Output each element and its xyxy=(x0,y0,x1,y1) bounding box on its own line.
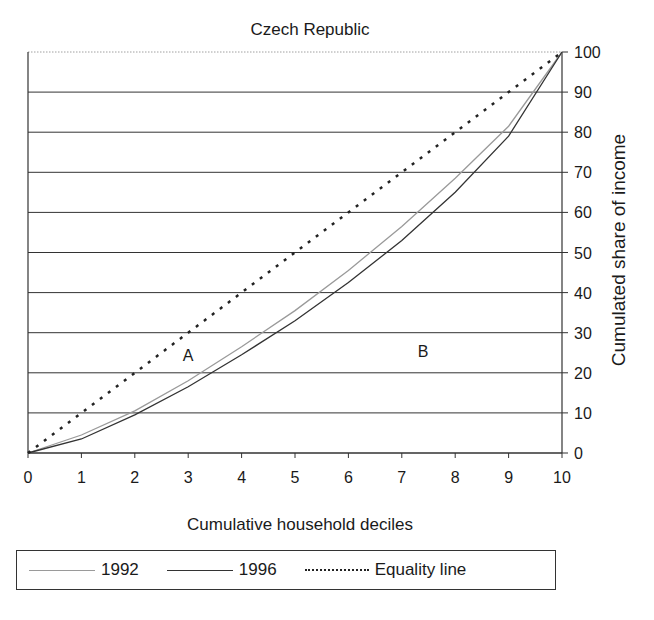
x-axis-label: Cumulative household deciles xyxy=(0,515,600,535)
legend-swatch-equality xyxy=(305,569,369,571)
legend-swatch-1992 xyxy=(29,570,95,571)
y-tick-label: 90 xyxy=(574,84,592,101)
legend-item-1992: 1992 xyxy=(29,560,139,580)
y-tick-label: 40 xyxy=(574,285,592,302)
legend-item-equality: Equality line xyxy=(305,560,467,580)
legend-label-1992: 1992 xyxy=(101,560,139,580)
y-tick-label: 10 xyxy=(574,405,592,422)
legend-swatch-1996 xyxy=(167,570,233,571)
legend-label-1996: 1996 xyxy=(239,560,277,580)
y-tick-label: 60 xyxy=(574,204,592,221)
x-tick-label: 3 xyxy=(184,469,193,486)
x-tick-label: 0 xyxy=(24,469,33,486)
x-tick-label: 2 xyxy=(130,469,139,486)
x-tick-label: 1 xyxy=(77,469,86,486)
y-tick-label: 0 xyxy=(574,445,583,462)
legend-label-equality: Equality line xyxy=(375,560,467,580)
x-tick-label: 10 xyxy=(553,469,571,486)
x-tick-label: 4 xyxy=(237,469,246,486)
chart-title: Czech Republic xyxy=(0,20,620,40)
y-tick-label: 100 xyxy=(574,44,601,61)
x-tick-label: 5 xyxy=(291,469,300,486)
annotation-a: A xyxy=(183,347,194,364)
y-tick-label: 30 xyxy=(574,325,592,342)
x-tick-label: 7 xyxy=(397,469,406,486)
x-tick-label: 8 xyxy=(451,469,460,486)
y-tick-label: 70 xyxy=(574,164,592,181)
x-tick-label: 9 xyxy=(504,469,513,486)
x-tick-label: 6 xyxy=(344,469,353,486)
y-tick-label: 50 xyxy=(574,245,592,262)
y-tick-label: 80 xyxy=(574,124,592,141)
y-tick-label: 20 xyxy=(574,365,592,382)
annotation-b: B xyxy=(418,343,429,360)
legend: 1992 1996 Equality line xyxy=(16,550,556,590)
y-axis-label: Cumulated share of income xyxy=(608,100,632,400)
legend-item-1996: 1996 xyxy=(167,560,277,580)
